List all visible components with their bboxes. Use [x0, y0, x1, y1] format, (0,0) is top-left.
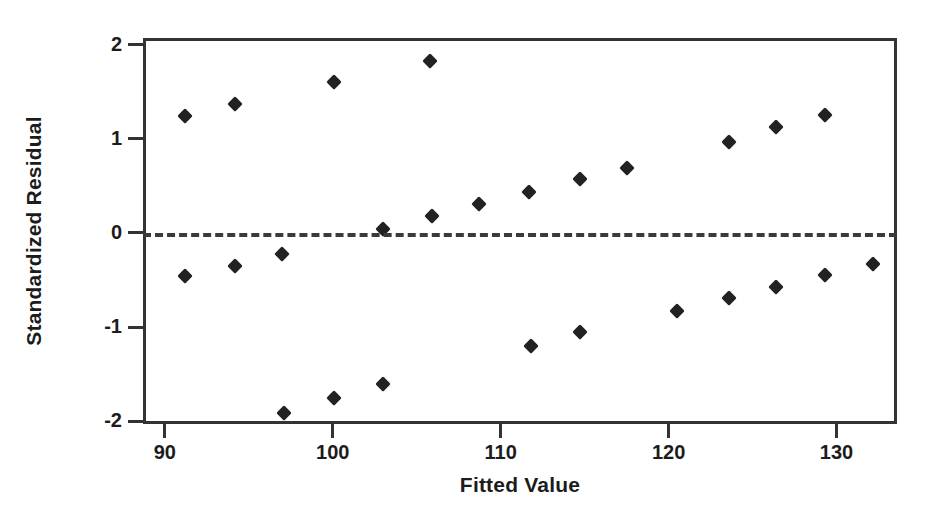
- data-point-marker: [768, 120, 784, 136]
- data-point-marker: [817, 267, 833, 283]
- data-point-marker: [275, 246, 291, 262]
- data-point-marker: [721, 134, 737, 150]
- data-point-marker: [721, 290, 737, 306]
- zero-reference-line: [143, 233, 897, 237]
- data-point-marker: [669, 303, 685, 319]
- data-point-marker: [572, 324, 588, 340]
- residual-plot-figure: Standardized Residual Fitted Value 210-1…: [0, 0, 933, 524]
- data-point-marker: [471, 196, 487, 212]
- data-point-marker: [177, 268, 193, 284]
- data-point-marker: [523, 338, 539, 354]
- data-point-marker: [572, 171, 588, 187]
- data-point-marker: [817, 107, 833, 123]
- data-point-marker: [422, 53, 438, 69]
- data-points-layer: [0, 0, 933, 524]
- data-point-marker: [327, 390, 343, 406]
- data-point-marker: [866, 256, 882, 272]
- data-point-marker: [375, 376, 391, 392]
- data-point-marker: [768, 280, 784, 296]
- data-point-marker: [521, 185, 537, 201]
- data-point-marker: [619, 160, 635, 176]
- data-point-marker: [327, 74, 343, 90]
- data-point-marker: [228, 258, 244, 274]
- data-point-marker: [276, 405, 292, 421]
- data-point-marker: [424, 208, 440, 224]
- data-point-marker: [177, 108, 193, 124]
- data-point-marker: [228, 96, 244, 112]
